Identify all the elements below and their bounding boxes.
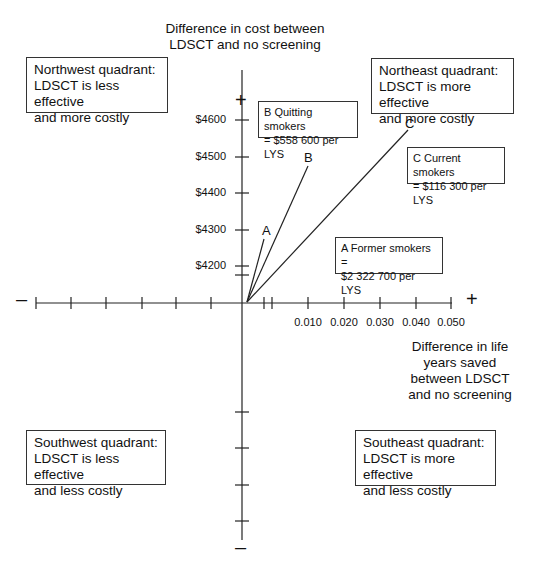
y-axis-title-text: Difference in cost between LDSCT and no … — [166, 21, 325, 52]
y-tick-4400: $4400 — [176, 186, 226, 198]
point-b-line1: B Quitting smokers — [264, 105, 352, 133]
point-a-label: A — [262, 223, 271, 238]
ne-line2: LDSCT is more effective — [379, 79, 506, 111]
northwest-quadrant-box: Northwest quadrant: LDSCT is less effect… — [26, 57, 168, 113]
se-line2: LDSCT is more effective — [363, 451, 488, 483]
point-c-box: C Current smokers = $116 300 per LYS — [407, 147, 505, 184]
point-c-label: C — [405, 116, 414, 131]
x-tick-020: 0.020 — [324, 316, 364, 328]
point-a-box: A Former smokers = $2 322 700 per LYS — [335, 237, 443, 274]
sw-line2: LDSCT is less effective — [34, 451, 158, 483]
y-tick-4200: $4200 — [176, 259, 226, 271]
southwest-quadrant-box: Southwest quadrant: LDSCT is less effect… — [26, 430, 166, 485]
nw-title: Northwest quadrant: — [34, 62, 160, 78]
sw-title: Southwest quadrant: — [34, 435, 158, 451]
y-tick-4600: $4600 — [176, 113, 226, 125]
nw-line3: and more costly — [34, 110, 160, 126]
point-a-line1: A Former smokers = — [341, 241, 437, 269]
y-tick-4500: $4500 — [176, 150, 226, 162]
point-b-box: B Quitting smokers = $558 600 per LYS — [258, 101, 358, 138]
point-c-line2: = $116 300 per LYS — [413, 179, 499, 207]
x-plus-sign: + — [466, 289, 478, 309]
y-axis-title: Difference in cost between LDSCT and no … — [160, 21, 330, 53]
x-tick-050: 0.050 — [431, 316, 471, 328]
point-c-line1: C Current smokers — [413, 151, 499, 179]
x-minus-sign: – — [16, 289, 27, 309]
y-minus-sign: – — [235, 537, 246, 557]
y-plus-sign: + — [235, 90, 247, 110]
x-tick-010: 0.010 — [288, 316, 328, 328]
point-b-label: B — [304, 150, 313, 165]
x-tick-040: 0.040 — [396, 316, 436, 328]
x-axis-title-text: Difference in life years saved between L… — [408, 339, 512, 402]
point-a-line2: $2 322 700 per LYS — [341, 269, 437, 297]
sw-line3: and less costly — [34, 483, 158, 499]
southeast-quadrant-box: Southeast quadrant: LDSCT is more effect… — [355, 430, 496, 486]
y-tick-4300: $4300 — [176, 223, 226, 235]
ne-line3: and more costly — [379, 111, 506, 127]
x-tick-030: 0.030 — [360, 316, 400, 328]
line-b — [247, 166, 308, 302]
x-axis-title: Difference in life years saved between L… — [400, 339, 520, 403]
nw-line2: LDSCT is less effective — [34, 78, 160, 110]
se-line3: and less costly — [363, 483, 488, 499]
northeast-quadrant-box: Northeast quadrant: LDSCT is more effect… — [371, 58, 514, 114]
se-title: Southeast quadrant: — [363, 435, 488, 451]
ne-title: Northeast quadrant: — [379, 63, 506, 79]
